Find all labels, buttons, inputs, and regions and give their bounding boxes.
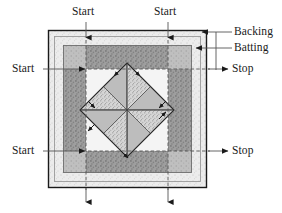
label-start-top-right: Start <box>154 6 176 18</box>
diagram-canvas: Start Start Start Start Stop Stop Backin… <box>0 0 282 213</box>
label-batting: Batting <box>234 42 269 54</box>
label-stop-mid-right: Stop <box>232 63 254 75</box>
label-backing: Backing <box>234 26 273 38</box>
label-stop-bottom-right: Stop <box>232 145 254 157</box>
label-start-bottom-left: Start <box>12 145 34 157</box>
label-start-top-left: Start <box>72 6 94 18</box>
label-start-mid-left: Start <box>12 63 34 75</box>
